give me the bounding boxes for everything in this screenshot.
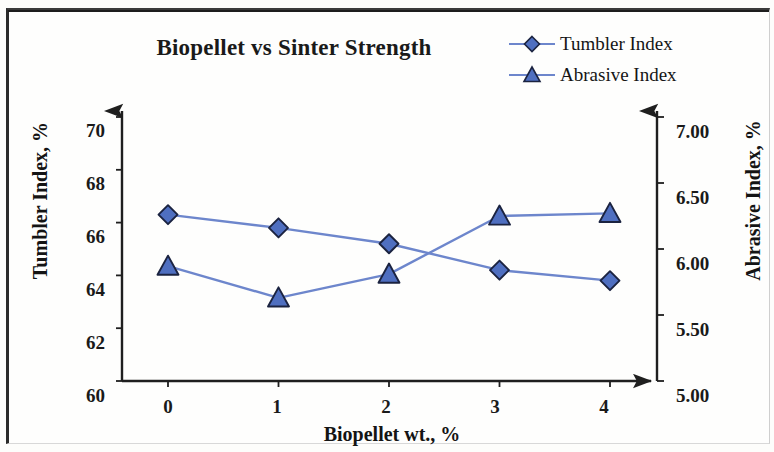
chart-canvas xyxy=(9,11,773,447)
data-series-layer xyxy=(158,203,621,307)
data-point-diamond xyxy=(601,271,620,290)
data-point-diamond xyxy=(380,234,399,253)
data-point-triangle xyxy=(379,264,400,283)
data-point-diamond xyxy=(159,205,178,224)
series-abrasive-index xyxy=(158,203,621,307)
data-point-diamond xyxy=(269,218,288,237)
data-point-triangle xyxy=(158,256,179,275)
figure-frame: Biopellet vs Sinter Strength Tumbler Ind… xyxy=(6,8,770,444)
data-point-diamond xyxy=(490,261,509,280)
series-line-1 xyxy=(168,213,610,297)
plot-area: Biopellet vs Sinter Strength Tumbler Ind… xyxy=(9,11,769,443)
chart-page: Biopellet vs Sinter Strength Tumbler Ind… xyxy=(0,0,774,452)
